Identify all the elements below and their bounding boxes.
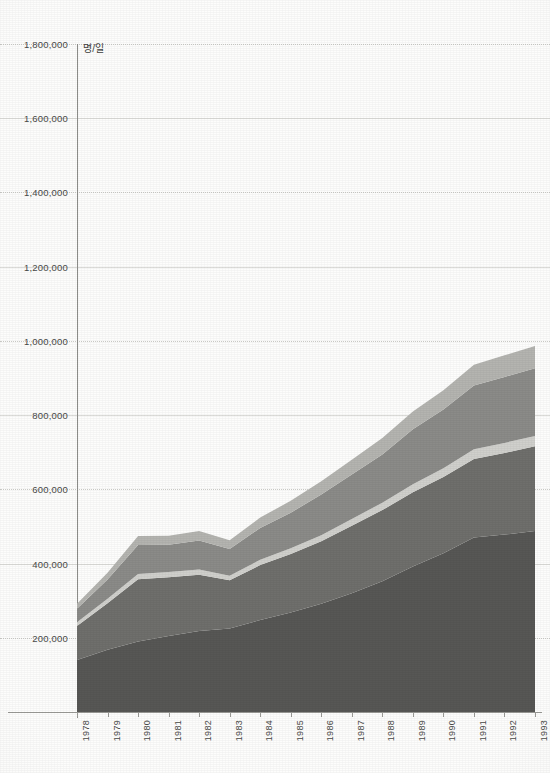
x-tick-1991 (474, 712, 475, 717)
x-tick-label-1991: 1991 (478, 720, 488, 741)
x-tick-1987 (352, 712, 353, 717)
x-tick-label-1989: 1989 (417, 720, 427, 741)
x-tick-1985 (291, 712, 292, 717)
x-tick-label-1978: 1978 (81, 720, 91, 741)
y-tick-label-800000: 800,000 (0, 410, 68, 421)
x-tick-1992 (504, 712, 505, 717)
y-tick-label-1400000: 1,400,000 (0, 187, 68, 198)
x-tick-1989 (413, 712, 414, 717)
x-tick-label-1983: 1983 (234, 720, 244, 741)
x-tick-1982 (199, 712, 200, 717)
y-tick-label-600000: 600,000 (0, 484, 68, 495)
x-tick-label-1987: 1987 (356, 720, 366, 741)
x-tick-1979 (108, 712, 109, 717)
x-axis-labels: 1978197919801981198219831984198519861987… (0, 712, 550, 773)
y-tick-label-200000: 200,000 (0, 632, 68, 643)
y-tick-label-1600000: 1,600,000 (0, 113, 68, 124)
x-tick-label-1992: 1992 (508, 720, 518, 741)
x-tick-label-1979: 1979 (112, 720, 122, 741)
x-tick-1990 (443, 712, 444, 717)
x-tick-label-1980: 1980 (142, 720, 152, 741)
x-tick-label-1982: 1982 (203, 720, 213, 741)
x-tick-label-1986: 1986 (325, 720, 335, 741)
x-tick-1993 (535, 712, 536, 717)
x-tick-1978 (77, 712, 78, 717)
plot-area (77, 44, 535, 712)
stacked-area-chart: 200,000400,000600,000800,0001,000,0001,2… (0, 0, 550, 773)
y-tick-label-1200000: 1,200,000 (0, 261, 68, 272)
x-tick-label-1993: 1993 (539, 720, 549, 741)
y-axis-labels: 200,000400,000600,000800,0001,000,0001,2… (0, 0, 68, 773)
y-tick-label-1000000: 1,000,000 (0, 335, 68, 346)
x-tick-label-1985: 1985 (295, 720, 305, 741)
x-tick-label-1981: 1981 (173, 720, 183, 741)
x-tick-1980 (138, 712, 139, 717)
y-tick-label-1800000: 1,800,000 (0, 39, 68, 50)
x-tick-1986 (321, 712, 322, 717)
x-tick-label-1984: 1984 (264, 720, 274, 741)
area-series-svg (77, 44, 535, 712)
x-tick-1988 (382, 712, 383, 717)
x-tick-1981 (169, 712, 170, 717)
x-tick-label-1990: 1990 (447, 720, 457, 741)
x-tick-label-1988: 1988 (386, 720, 396, 741)
y-tick-label-400000: 400,000 (0, 558, 68, 569)
x-tick-1983 (230, 712, 231, 717)
x-tick-1984 (260, 712, 261, 717)
